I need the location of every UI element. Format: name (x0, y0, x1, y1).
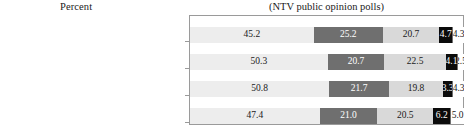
bar-segment-value: 50.3 (190, 54, 328, 70)
bar-row: 50.821.719.83.34.3 (190, 81, 464, 97)
bar-segment-value: 25.2 (314, 27, 383, 43)
bar-segment-value: 21.7 (329, 81, 389, 97)
bar-segment-value: 21.0 (320, 108, 377, 124)
bar-segment-value: 45.2 (190, 27, 314, 43)
stacked-bar-chart: Percent (NTV public opinion polls) Nov 2… (0, 0, 470, 139)
axis-caption-percent: Percent (60, 1, 92, 12)
chart-header: Percent (NTV public opinion polls) (0, 0, 470, 16)
bar-segment-value: 4.1 (446, 54, 457, 70)
bar-segment-value: 2.5 (457, 54, 464, 70)
bar-segment-value: 5.0 (450, 108, 464, 124)
bar-segment-value: 19.8 (389, 81, 443, 97)
bar-segment-value: 47.4 (190, 108, 320, 124)
chart-title: (NTV public opinion polls) (189, 1, 464, 12)
bar-segment-value: 50.8 (190, 81, 329, 97)
bar-segment-value: 6.2 (433, 108, 450, 124)
bar-row: 50.320.722.54.12.5 (190, 54, 464, 70)
bar-segment-value: 4.3 (452, 81, 464, 97)
bar-segment-value: 20.7 (328, 54, 385, 70)
bar-segment-value: 4.7 (439, 27, 452, 43)
bar-segment-value: 20.5 (377, 108, 433, 124)
bar-segment-value: 3.3 (443, 81, 452, 97)
bar-row: 45.225.220.74.74.3 (190, 27, 464, 43)
bar-segment-value: 22.5 (384, 54, 446, 70)
bar-segment-value: 20.7 (383, 27, 440, 43)
bar-row: 47.421.020.56.25.0 (190, 108, 464, 124)
bar-segment-value: 4.3 (452, 27, 464, 43)
